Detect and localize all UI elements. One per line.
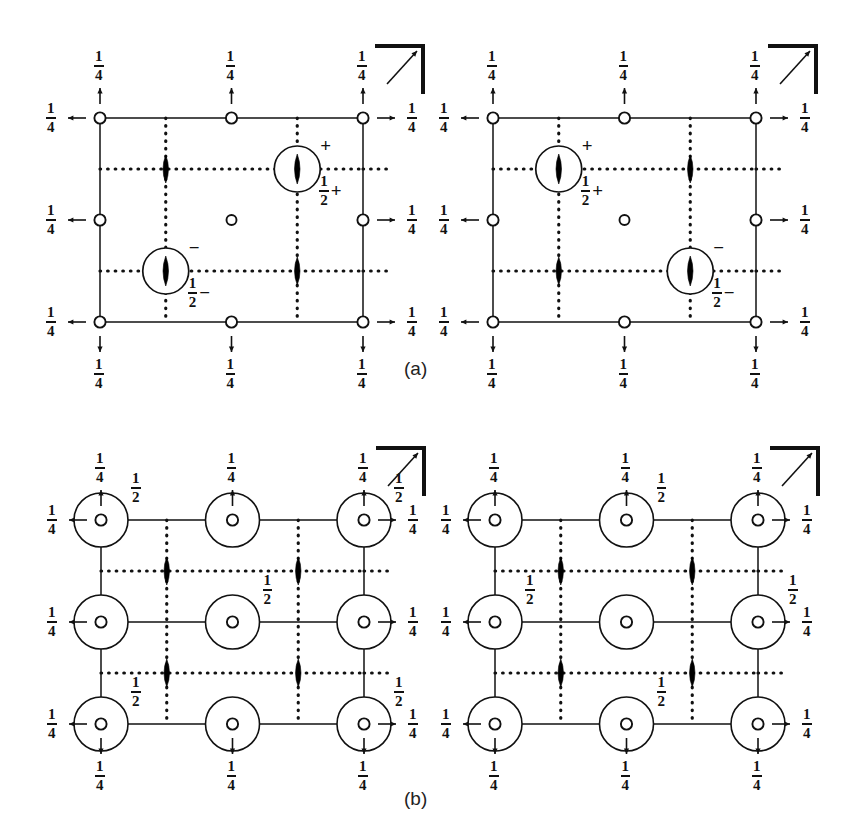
- b-right-inner-open-circle-8: [752, 718, 763, 729]
- a-right-lattice-open-circle-4: [750, 214, 761, 225]
- a-right-right-label-2: 14: [800, 305, 810, 339]
- a-right-left-arrow-0-head: [461, 115, 466, 120]
- a-left-left-arrow-2-head: [68, 319, 73, 324]
- a-right-left-label-0: 14: [439, 101, 449, 135]
- a-left-bottom-arrow-0-head: [97, 347, 102, 352]
- b-left-inner-open-circle-4: [227, 616, 238, 627]
- b-right-two-fold-lens-2: [558, 659, 564, 687]
- a-right-height-label-1: 12−: [712, 276, 734, 310]
- a-right-left-arrow-1-head: [461, 217, 466, 222]
- b-right-two-fold-lens-1: [690, 557, 696, 585]
- b-left-left-arrow-1-head: [69, 619, 74, 624]
- a-left-two-fold-lens-1: [295, 257, 301, 285]
- a-right-two-fold-lens-0: [688, 155, 694, 183]
- a-right-top-arrow-0-head: [490, 88, 495, 93]
- a-right-lattice-open-circle-0: [487, 112, 498, 123]
- a-left-axis-marker-diagonal-arrow: [387, 51, 417, 84]
- b-right-left-label-1: 14: [441, 605, 451, 639]
- b-left-inner-open-circle-0: [95, 514, 106, 525]
- a-right-left-label-1: 14: [439, 203, 449, 237]
- a-right-right-label-0: 14: [800, 101, 810, 135]
- a-right-bottom-arrow-0-head: [490, 347, 495, 352]
- a-left-lattice-open-circle-2: [357, 112, 368, 123]
- a-right-sign-0: +: [582, 136, 593, 155]
- b-right-inner-open-circle-0: [489, 514, 500, 525]
- b-left-inner-open-circle-3: [95, 616, 106, 627]
- b-right-bottom-label-0: 14: [489, 759, 499, 793]
- a-right-right-arrow-0-head: [783, 115, 788, 120]
- a-left-top-label-1: 14: [226, 49, 236, 83]
- b-left-inner-open-circle-6: [95, 718, 106, 729]
- a-right-bottom-arrow-2-head: [753, 347, 758, 352]
- a-left-left-label-0: 14: [46, 101, 56, 135]
- b-right-left-arrow-0-head: [463, 517, 468, 522]
- a-right-lattice-open-circle-1: [619, 112, 630, 123]
- a-right-axis-marker-diagonal-arrow: [780, 51, 810, 84]
- b-left-two-fold-lens-2: [164, 659, 170, 687]
- b-right-bottom-label-2: 14: [752, 759, 762, 793]
- a-left-right-arrow-0-head: [390, 115, 395, 120]
- b-right-two-fold-lens-0: [558, 557, 564, 585]
- b-left-half-label-0: 12: [131, 471, 141, 505]
- a-left-lattice-open-circle-0: [94, 112, 105, 123]
- b-right-two-fold-lens-3: [690, 659, 696, 687]
- a-left-bottom-label-1: 14: [226, 357, 236, 391]
- a-left-sign-0: +: [320, 136, 331, 155]
- panel-label-a: (a): [404, 358, 427, 380]
- b-right-top-label-0: 14: [489, 451, 499, 485]
- b-right-left-label-2: 14: [441, 707, 451, 741]
- b-left-left-arrow-0-head: [69, 517, 74, 522]
- b-right-inner-open-circle-2: [752, 514, 763, 525]
- b-left-half-label-2: 12: [394, 471, 404, 505]
- a-left-bottom-arrow-2-head: [360, 347, 365, 352]
- a-left-center-open-circle: [227, 215, 237, 225]
- a-right-lattice-open-circle-7: [750, 316, 761, 327]
- a-right-right-arrow-2-head: [783, 319, 788, 324]
- a-left-height-label-1: 12−: [188, 276, 210, 310]
- a-left-left-arrow-1-head: [68, 217, 73, 222]
- a-left-top-arrow-1-head: [229, 88, 234, 93]
- a-left-top-label-0: 14: [94, 49, 104, 83]
- b-right-top-label-1: 14: [621, 451, 631, 485]
- b-left-two-fold-lens-3: [296, 659, 302, 687]
- b-right-right-label-0: 14: [802, 503, 812, 537]
- b-right-half-label-5: 12: [788, 573, 798, 607]
- a-right-right-label-1: 14: [800, 203, 810, 237]
- b-right-right-label-1: 14: [802, 605, 812, 639]
- b-left-bottom-label-2: 14: [358, 759, 368, 793]
- b-right-inner-open-circle-6: [489, 718, 500, 729]
- a-right-top-arrow-1-head: [622, 88, 627, 93]
- a-left-left-label-2: 14: [46, 305, 56, 339]
- b-left-half-label-6: 12: [131, 675, 141, 709]
- a-right-sign-1: −: [713, 238, 724, 257]
- b-left-inner-open-circle-5: [358, 616, 369, 627]
- a-right-left-label-2: 14: [439, 305, 449, 339]
- b-right-right-label-2: 14: [802, 707, 812, 741]
- b-right-left-arrow-1-head: [463, 619, 468, 624]
- a-left-left-arrow-0-head: [68, 115, 73, 120]
- a-right-lattice-open-circle-3: [487, 214, 498, 225]
- b-left-top-label-1: 14: [227, 451, 237, 485]
- a-left-right-arrow-2-head: [390, 319, 395, 324]
- b-left-inner-open-circle-7: [227, 718, 238, 729]
- a-right-center-open-circle: [620, 215, 630, 225]
- b-left-right-label-0: 14: [408, 503, 418, 537]
- b-left-top-label-2: 14: [358, 451, 368, 485]
- a-right-lattice-open-circle-5: [487, 316, 498, 327]
- a-left-top-label-2: 14: [357, 49, 367, 83]
- b-right-inner-open-circle-5: [752, 616, 763, 627]
- a-right-bottom-arrow-1-head: [622, 347, 627, 352]
- b-right-inner-open-circle-7: [621, 718, 632, 729]
- b-left-left-label-0: 14: [47, 503, 57, 537]
- a-right-top-label-2: 14: [750, 49, 760, 83]
- a-left-right-label-2: 14: [407, 305, 417, 339]
- b-left-left-label-2: 14: [47, 707, 57, 741]
- b-right-inner-open-circle-3: [489, 616, 500, 627]
- a-right-lattice-open-circle-6: [619, 316, 630, 327]
- a-left-top-arrow-0-head: [97, 88, 102, 93]
- b-left-half-label-8: 12: [394, 675, 404, 709]
- a-right-top-label-1: 14: [619, 49, 629, 83]
- a-right-right-arrow-1-head: [783, 217, 788, 222]
- b-left-inner-open-circle-1: [227, 514, 238, 525]
- b-right-right-arrow-0-head: [785, 517, 790, 522]
